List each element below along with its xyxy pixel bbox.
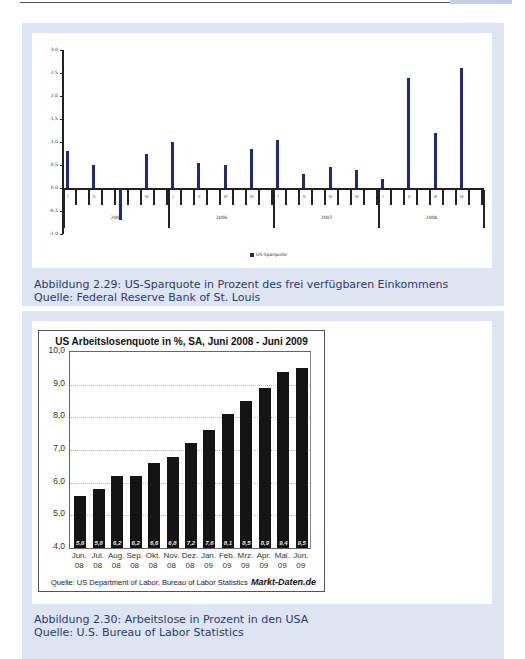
bar-value-label: 8,1 xyxy=(220,540,236,546)
bar-2007-I xyxy=(276,140,279,188)
figure-2-30-panel: US Arbeitslosenquote in %, SA, Juni 2008… xyxy=(22,311,504,659)
bar-2007-III xyxy=(329,167,332,188)
quarter-label: II xyxy=(89,194,99,199)
bar-2006-I xyxy=(171,142,174,188)
bar-Nov08: 6,8 xyxy=(167,457,179,548)
chart-legend: US-Sparquote xyxy=(250,252,287,257)
y-tick-mark xyxy=(60,234,63,235)
quarter-label: III xyxy=(221,194,231,199)
y-tick-label: 1,5 xyxy=(38,116,58,121)
y-tick-label: 2,5 xyxy=(38,70,58,75)
x-tick-mark xyxy=(442,190,444,205)
quarter-label: IV xyxy=(142,194,152,199)
bar-Mai09: 9,4 xyxy=(277,372,289,548)
grid-line xyxy=(70,417,310,418)
bar-value-label: 9,4 xyxy=(275,540,291,546)
bar-value-label: 5,6 xyxy=(72,540,88,546)
bar-2005-I xyxy=(66,151,69,188)
legend-swatch xyxy=(250,253,254,257)
bar-Jun08: 5,6 xyxy=(74,496,86,548)
y-tick-mark xyxy=(60,142,63,143)
bar-2008-I xyxy=(381,179,384,188)
y-tick-mark xyxy=(60,188,63,189)
y-tick-mark xyxy=(60,50,63,51)
quarter-label: I xyxy=(378,194,388,199)
bar-2008-III xyxy=(434,133,437,188)
x-tick-mark xyxy=(363,190,365,205)
year-label: 2006 xyxy=(207,215,237,220)
x-tick-mark xyxy=(153,190,155,205)
x-tick-mark xyxy=(337,190,339,205)
y-tick-mark xyxy=(60,119,63,120)
y-tick-label: 9,0 xyxy=(39,378,65,388)
x-tick-mark xyxy=(232,190,234,205)
x-tick-mark xyxy=(285,190,287,205)
figure-2-30-caption-source: Quelle: U.S. Bureau of Labor Statistics xyxy=(34,626,308,639)
bar-2007-II xyxy=(302,174,305,188)
bar-Aug08: 6,2 xyxy=(111,476,123,548)
y-tick-label: 4,0 xyxy=(39,541,65,551)
bar-2006-II xyxy=(197,163,200,188)
y-tick-mark xyxy=(60,73,63,74)
quarter-label: I xyxy=(168,194,178,199)
quarter-label: I xyxy=(63,194,73,199)
x-tick-mark xyxy=(258,190,260,205)
year-label: 2008 xyxy=(417,215,447,220)
savings-rate-bar-chart: 3,02,52,01,51,00,50,0-0,5-1,0IIIIIIIVIII… xyxy=(32,33,492,268)
x-tick-mark xyxy=(311,190,313,205)
x-tick-mark xyxy=(101,190,103,205)
y-tick-label: 7,0 xyxy=(39,443,65,453)
y-tick-label: 5,0 xyxy=(39,508,65,518)
bar-2006-IV xyxy=(250,149,253,188)
bar-2008-II xyxy=(407,78,410,188)
y-tick-label: 3,0 xyxy=(38,47,58,52)
year-separator xyxy=(483,190,485,228)
bar-value-label: 6,8 xyxy=(165,540,181,546)
chart-brand-logo: Markt-Daten.de xyxy=(251,577,316,587)
bar-value-label: 9,5 xyxy=(294,540,310,546)
bar-value-label: 6,6 xyxy=(146,540,162,546)
bar-2007-IV xyxy=(355,170,358,188)
plot-area: 5,65,86,26,26,66,87,27,68,18,58,99,49,5 xyxy=(69,351,311,549)
quarter-label: II xyxy=(194,194,204,199)
figure-2-29-caption-title: Abbildung 2.29: US-Sparquote in Prozent … xyxy=(34,278,448,291)
unemployment-bar-chart: US Arbeitslosenquote in %, SA, Juni 2008… xyxy=(38,330,325,592)
quarter-label: II xyxy=(404,194,414,199)
grid-line xyxy=(70,385,310,386)
quarter-label: II xyxy=(299,194,309,199)
bar-value-label: 5,8 xyxy=(91,540,107,546)
y-tick-label: -1,0 xyxy=(38,231,58,236)
figure-2-29-caption-source: Quelle: Federal Reserve Bank of St. Loui… xyxy=(34,291,448,304)
quarter-label: III xyxy=(326,194,336,199)
y-tick-label: 2,0 xyxy=(38,93,58,98)
quarter-label: IV xyxy=(457,194,467,199)
y-tick-label: 6,0 xyxy=(39,476,65,486)
quarter-label: III xyxy=(431,194,441,199)
bar-value-label: 6,2 xyxy=(128,540,144,546)
quarter-label: IV xyxy=(247,194,257,199)
x-tick-mark xyxy=(127,190,129,205)
figure-2-29-caption: Abbildung 2.29: US-Sparquote in Prozent … xyxy=(34,278,448,304)
bar-value-label: 7,6 xyxy=(201,540,217,546)
bar-value-label: 6,2 xyxy=(109,540,125,546)
x-tick-mark xyxy=(206,190,208,205)
y-tick-label: 0,5 xyxy=(38,162,58,167)
bar-Dez08: 7,2 xyxy=(185,443,197,548)
x-tick-mark xyxy=(180,190,182,205)
figure-2-30-chart-area: US Arbeitslosenquote in %, SA, Juni 2008… xyxy=(32,321,492,604)
chart-source: Quelle: US Department of Labor, Bureau o… xyxy=(51,578,248,587)
x-tick-mark xyxy=(416,190,418,205)
bar-2005-II xyxy=(92,165,95,188)
y-tick-label: 1,0 xyxy=(38,139,58,144)
bar-Okt08: 6,6 xyxy=(148,463,160,548)
bar-value-label: 8,9 xyxy=(257,540,273,546)
x-tick-mark xyxy=(75,190,77,205)
bar-2008-IV xyxy=(460,68,463,188)
legend-label: US-Sparquote xyxy=(256,252,287,257)
page-header-rule xyxy=(20,2,510,3)
bar-value-label: 8,5 xyxy=(238,540,254,546)
figure-2-29-panel: 3,02,52,01,51,00,50,0-0,5-1,0IIIIIIIVIII… xyxy=(22,23,504,306)
year-label: 2007 xyxy=(312,215,342,220)
y-tick-label: 0,0 xyxy=(38,185,58,190)
bar-value-label: 7,2 xyxy=(183,540,199,546)
